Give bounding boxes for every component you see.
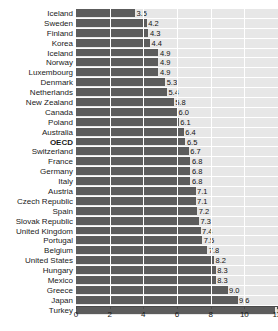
- bar-row: Poland6.1: [0, 118, 278, 128]
- bar: [76, 49, 158, 57]
- bar-track: 7.1: [76, 187, 278, 197]
- x-axis-tick-label: 6: [175, 310, 179, 319]
- bar-track: 5.4: [76, 88, 278, 98]
- bar: [76, 266, 216, 274]
- bar-row: Japan9.6: [0, 296, 278, 306]
- bar-value-label: 4.3: [148, 29, 160, 39]
- bar-row-label: Norway: [0, 58, 76, 68]
- bar: [76, 108, 177, 116]
- bar-row: Hungary8.3: [0, 266, 278, 276]
- bar-track: 4.9: [76, 68, 278, 78]
- bar: [76, 177, 190, 185]
- bar-row: Korea4.4: [0, 39, 278, 49]
- bar-row: Mexico8.3: [0, 276, 278, 286]
- bar: [76, 29, 148, 37]
- bar-row: Austria7.1: [0, 187, 278, 197]
- bar: [76, 197, 196, 205]
- bar-row: Spain7.2: [0, 207, 278, 217]
- bar-track: 9.0: [76, 286, 278, 296]
- bar-track: 6.1: [76, 118, 278, 128]
- bar-row: Belgium7.8: [0, 246, 278, 256]
- bar: [76, 157, 190, 165]
- bar-row: Greece9.0: [0, 286, 278, 296]
- x-axis-tick: [211, 306, 212, 309]
- bar-value-label: 5.8: [174, 98, 186, 108]
- bar-track: 6.0: [76, 108, 278, 118]
- bar-row-label: Belgium: [0, 246, 76, 256]
- bar: [76, 236, 202, 244]
- bar-track: 7.4: [76, 227, 278, 237]
- bar: [76, 276, 216, 284]
- bar: [76, 167, 190, 175]
- x-axis-tick-label: 8: [208, 310, 212, 319]
- bar-value-label: 8.2: [214, 256, 226, 266]
- bar-track: 5.3: [76, 78, 278, 88]
- bar-value-label: 7.2: [197, 207, 209, 217]
- bar: [76, 88, 167, 96]
- bar-track: 3.5: [76, 9, 278, 19]
- bar-value-label: 6.0: [177, 108, 189, 118]
- bar: [76, 207, 197, 215]
- bar-row: Norway4.9: [0, 58, 278, 68]
- bar-row-label: Switzerland: [0, 147, 76, 157]
- bar-track: 6.8: [76, 177, 278, 187]
- bar-row-label: Hungary: [0, 266, 76, 276]
- bar-row-label: France: [0, 157, 76, 167]
- bar-track: 6.8: [76, 167, 278, 177]
- x-axis-tick: [76, 306, 77, 309]
- bar-track: 7.3: [76, 217, 278, 227]
- x-axis-tick-label: 10: [240, 310, 249, 319]
- bar: [76, 78, 165, 86]
- bar-track: 6.4: [76, 128, 278, 138]
- bar-row: Luxembourg4.9: [0, 68, 278, 78]
- bar-value-label: 5.3: [165, 78, 177, 88]
- x-axis-tick-label: 0: [74, 310, 78, 319]
- bar-value-label: 4.9: [158, 58, 170, 68]
- bar-value-label: 6.5: [185, 138, 197, 148]
- bar-row: Denmark5.3: [0, 78, 278, 88]
- bar-row-label: Spain: [0, 207, 76, 217]
- bar-track: 4.9: [76, 58, 278, 68]
- x-axis-tick: [277, 306, 278, 309]
- bar-value-label: 8.3: [216, 276, 228, 286]
- bar-row: Italy6.8: [0, 177, 278, 187]
- x-axis: 024681012: [76, 306, 278, 331]
- bar-row-label: Japan: [0, 296, 76, 306]
- bar-row: Switzerland6.7: [0, 147, 278, 157]
- x-axis-tick-label: 2: [107, 310, 111, 319]
- bar: [76, 227, 201, 235]
- bar-row-label: Luxembourg: [0, 68, 76, 78]
- bar-row-label: New Zealand: [0, 98, 76, 108]
- bar-rows: Iceland3.5Sweden4.2Finland4.3Korea4.4Ice…: [0, 9, 278, 316]
- bar: [76, 19, 147, 27]
- bar: [76, 286, 228, 294]
- bar-row: United Kingdom7.4: [0, 227, 278, 237]
- bar-row-label: Netherlands: [0, 88, 76, 98]
- bar-value-label: 7.1: [196, 187, 208, 197]
- bar: [76, 58, 158, 66]
- bar-track: 4.9: [76, 49, 278, 59]
- bar-row: Finland4.3: [0, 29, 278, 39]
- bar-row-label: Poland: [0, 118, 76, 128]
- bar: [76, 296, 238, 304]
- bar-row: OECD6.5: [0, 138, 278, 148]
- bar-track: 6.7: [76, 147, 278, 157]
- bar-track: 8.3: [76, 266, 278, 276]
- chart-title: [0, 0, 278, 4]
- bar-row-label: OECD: [0, 138, 76, 148]
- bar: [76, 187, 196, 195]
- bar-value-label: 9.0: [228, 286, 240, 296]
- bar-row-label: Mexico: [0, 276, 76, 286]
- bar-value-label: 7.4: [201, 227, 213, 237]
- bar-row: Australia6.4: [0, 128, 278, 138]
- bar-track: 9.6: [76, 296, 278, 306]
- bar-row-label: Canada: [0, 108, 76, 118]
- bar-row: Netherlands5.4: [0, 88, 278, 98]
- bar-row-label: Greece: [0, 286, 76, 296]
- bar-value-label: 4.9: [158, 49, 170, 59]
- bar-track: 7.1: [76, 197, 278, 207]
- bar-row-label: Finland: [0, 29, 76, 39]
- bar-row: United States8.2: [0, 256, 278, 266]
- bar-track: 8.2: [76, 256, 278, 266]
- bar-row-label: Korea: [0, 39, 76, 49]
